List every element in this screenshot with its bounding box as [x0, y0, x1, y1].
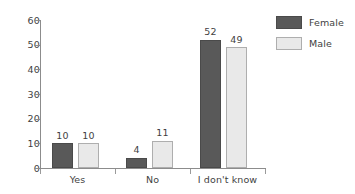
bar-no-male[interactable]	[152, 141, 173, 168]
bar-value-yes-male: 10	[74, 131, 103, 141]
bar-idk-male[interactable]	[226, 47, 247, 168]
x-axis-label-yes: Yes	[40, 174, 115, 185]
x-axis-label-no: No	[115, 174, 190, 185]
legend-item-male[interactable]: Male	[276, 34, 355, 53]
x-axis-label-idk: I don't know	[190, 174, 265, 185]
legend-swatch-male-icon	[276, 37, 302, 50]
legend-swatch-female-icon	[276, 16, 302, 29]
bar-value-yes-female: 10	[48, 131, 77, 141]
legend-item-female[interactable]: Female	[276, 13, 355, 32]
bar-yes-male[interactable]	[78, 143, 99, 168]
bar-value-idk-male: 49	[222, 35, 251, 45]
legend: Female Male	[276, 13, 355, 55]
x-axis-tick-3	[265, 169, 266, 174]
legend-label-male: Male	[309, 39, 332, 49]
bar-no-female[interactable]	[126, 158, 147, 168]
bar-value-no-female: 4	[122, 145, 151, 155]
bar-yes-female[interactable]	[52, 143, 73, 168]
bar-value-idk-female: 52	[196, 27, 225, 37]
x-axis-line	[40, 168, 266, 169]
bar-value-no-male: 11	[148, 128, 177, 138]
y-axis: 60 50 40 30 20 10 0	[0, 0, 40, 194]
plot-area: 10 10 4 11 52 49	[40, 20, 265, 168]
bar-chart: 60 50 40 30 20 10 0 10 10 4 11 52 49 Yes	[0, 0, 355, 194]
legend-label-female: Female	[309, 18, 344, 28]
bar-idk-female[interactable]	[200, 40, 221, 168]
